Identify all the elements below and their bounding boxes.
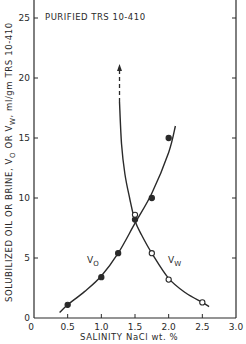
x-tick-label: 2.5	[195, 322, 209, 332]
data-point-vo	[149, 195, 154, 200]
y-axis-title-part1: SOLUBILIZED OIL OR BRINE, V	[4, 158, 14, 302]
series-label-vo: VO	[87, 255, 99, 268]
x-tick-label: 3.0	[229, 322, 244, 332]
data-point-vo	[166, 135, 171, 140]
series-label-vw: VW	[168, 255, 181, 268]
curve-vw	[120, 102, 210, 307]
y-tick-label: 25	[19, 13, 30, 23]
x-axis-title: SALINITY NaCl wt. %	[80, 332, 178, 342]
y-tick-label: 15	[19, 133, 30, 143]
data-point-vw	[200, 300, 205, 305]
x-tick-label: 1.0	[94, 322, 109, 332]
y-axis-title-part3: , ml/gm TRS 10-410	[4, 22, 14, 117]
plot-axes	[34, 0, 236, 318]
vw-label-sub: W	[174, 260, 181, 268]
data-point-vw	[149, 251, 154, 256]
x-tick-label: 2.0	[162, 322, 177, 332]
y-tick-label: 0	[24, 313, 30, 323]
y-tick-label: 5	[24, 253, 30, 263]
y-axis-title: SOLUBILIZED OIL OR BRINE, VO OR VW, ml/g…	[4, 22, 17, 302]
data-point-vw	[132, 212, 137, 217]
data-point-vo	[99, 275, 104, 280]
data-point-vo	[65, 302, 70, 307]
axis-ticks: 00.51.01.52.02.53.00510152025	[19, 13, 244, 332]
y-tick-label: 10	[19, 193, 31, 203]
data-curves	[60, 64, 209, 313]
data-point-vw	[166, 277, 171, 282]
solubilization-chart: 00.51.01.52.02.53.00510152025 PURIFIED T…	[0, 0, 246, 344]
x-tick-label: 0.5	[61, 322, 75, 332]
y-axis-sub-w: W	[9, 118, 17, 126]
data-points	[65, 135, 205, 307]
curve-vo	[60, 126, 176, 313]
chart-title: PURIFIED TRS 10-410	[45, 12, 146, 22]
x-tick-label: 0	[28, 322, 34, 332]
data-point-vo	[116, 251, 121, 256]
vo-label-sub: O	[93, 260, 99, 268]
y-axis-title-part2: OR V	[4, 125, 14, 152]
x-tick-label: 1.5	[128, 322, 142, 332]
arrow-up-icon	[117, 64, 122, 71]
y-tick-label: 20	[19, 73, 31, 83]
